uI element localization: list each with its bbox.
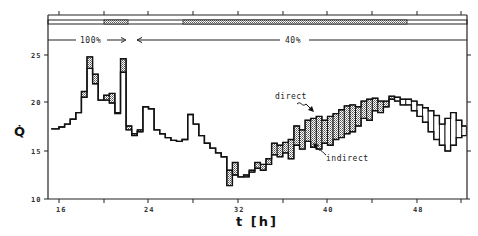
- direct-label: direct: [275, 92, 307, 101]
- difference-bar: [344, 106, 350, 134]
- difference-bar: [400, 99, 406, 105]
- x-tick-16: 16: [56, 206, 66, 214]
- y-tick-25: 25: [31, 52, 41, 60]
- label-40-percent: 40%: [285, 36, 301, 45]
- difference-bar: [445, 118, 451, 151]
- difference-bar: [266, 159, 272, 165]
- difference-bar: [361, 101, 367, 118]
- series-direct: [51, 57, 466, 177]
- difference-bar: [372, 98, 378, 111]
- difference-bar: [378, 101, 384, 113]
- series-indirect: [51, 68, 466, 185]
- difference-bar: [294, 126, 300, 145]
- difference-bar: [328, 116, 334, 145]
- indirect-label: indirect: [326, 154, 369, 163]
- difference-bar: [339, 110, 345, 138]
- difference-bar: [439, 124, 445, 145]
- difference-bar: [383, 101, 389, 107]
- difference-bar: [316, 116, 322, 149]
- x-tick-32: 32: [234, 206, 244, 214]
- difference-bar: [411, 101, 417, 111]
- difference-bar: [93, 74, 99, 84]
- difference-bar: [406, 99, 412, 105]
- difference-bar: [283, 142, 289, 153]
- difference-bar: [104, 95, 110, 100]
- difference-bar: [232, 163, 238, 176]
- band-segment-2: [183, 20, 407, 24]
- difference-bars: [81, 57, 466, 186]
- axes: 25 20 15 10 16 24 32 40 48 t [h] Q̇: [14, 15, 471, 229]
- difference-bar: [272, 143, 278, 155]
- difference-bar: [462, 126, 467, 136]
- difference-bar: [87, 57, 93, 69]
- top-band: 100% 40%: [48, 11, 467, 45]
- difference-bar: [81, 92, 87, 98]
- top-band-ticks: [59, 11, 461, 15]
- difference-bar: [428, 111, 434, 132]
- label-100-percent: 100%: [80, 36, 101, 45]
- difference-bar: [109, 93, 115, 103]
- difference-bar: [367, 99, 373, 120]
- y-tick-15: 15: [31, 148, 41, 156]
- difference-bar: [423, 108, 429, 122]
- difference-bar: [288, 140, 294, 159]
- difference-bar: [260, 164, 266, 170]
- difference-bar: [255, 163, 261, 169]
- difference-bar: [333, 114, 339, 140]
- y-axis-label: Q̇: [14, 124, 25, 139]
- chart: 100% 40% 2: [0, 0, 478, 236]
- x-ticks: [59, 199, 461, 203]
- difference-bar: [277, 145, 283, 157]
- band-segment-1: [104, 20, 128, 24]
- difference-bar: [322, 120, 328, 143]
- difference-bar: [350, 105, 356, 132]
- annotation-direct: direct: [275, 92, 314, 112]
- difference-bar: [456, 120, 462, 137]
- difference-bar: [305, 120, 311, 141]
- y-tick-10: 10: [31, 196, 41, 204]
- difference-bar: [434, 116, 440, 140]
- difference-bar: [227, 170, 233, 185]
- x-tick-24: 24: [144, 206, 154, 214]
- difference-bar: [356, 107, 362, 126]
- x-tick-40: 40: [323, 206, 333, 214]
- difference-bar: [300, 130, 306, 149]
- x-axis-label: t [h]: [236, 214, 278, 229]
- difference-bar: [451, 113, 457, 146]
- x-tick-48: 48: [413, 206, 423, 214]
- difference-bar: [311, 118, 317, 147]
- y-tick-20: 20: [31, 99, 41, 107]
- difference-bar: [417, 105, 423, 117]
- difference-bar: [121, 59, 127, 72]
